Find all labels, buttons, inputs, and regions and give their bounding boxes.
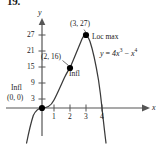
equation-minus: −: [122, 49, 131, 58]
y-tick-label-27: 27: [27, 31, 35, 39]
y-axis: [39, 18, 46, 136]
y-tick-label-21: 21: [27, 47, 35, 55]
equation-term2-exponent: 4: [134, 47, 137, 53]
x-axis-label: x: [152, 104, 156, 112]
x-tick-label-2: 2: [68, 113, 72, 121]
inflection-upper-point-label: (2, 16): [41, 53, 61, 61]
y-tick-label-9: 9: [31, 79, 35, 87]
equation-term1: 4x: [112, 49, 120, 58]
x-axis: [6, 105, 150, 112]
local-max-note: Loc max: [92, 33, 118, 41]
marker-local-max: [83, 32, 89, 38]
y-tick-label-15: 15: [27, 63, 35, 71]
data-point-markers: [39, 32, 89, 111]
leader-lines: [63, 30, 87, 66]
x-tick-label-1: 1: [52, 113, 56, 121]
y-tick-label-3: 3: [31, 95, 35, 103]
inflection-origin-point-label: (0, 0): [7, 94, 23, 102]
x-tick-label-3: 3: [84, 113, 88, 121]
marker-inflection-origin: [39, 105, 45, 111]
calculus-graph-figure: 19.: [0, 0, 162, 144]
x-tick-label-4: 4: [100, 113, 104, 121]
function-equation: y = 4x3 − x4: [100, 50, 137, 58]
inflection-origin-note: Infl: [11, 84, 22, 92]
y-axis-label: y: [38, 9, 42, 17]
local-max-point-label: (3, 27): [70, 20, 90, 28]
inflection-upper-note: Infl: [69, 70, 80, 78]
equation-equals: =: [104, 49, 113, 58]
